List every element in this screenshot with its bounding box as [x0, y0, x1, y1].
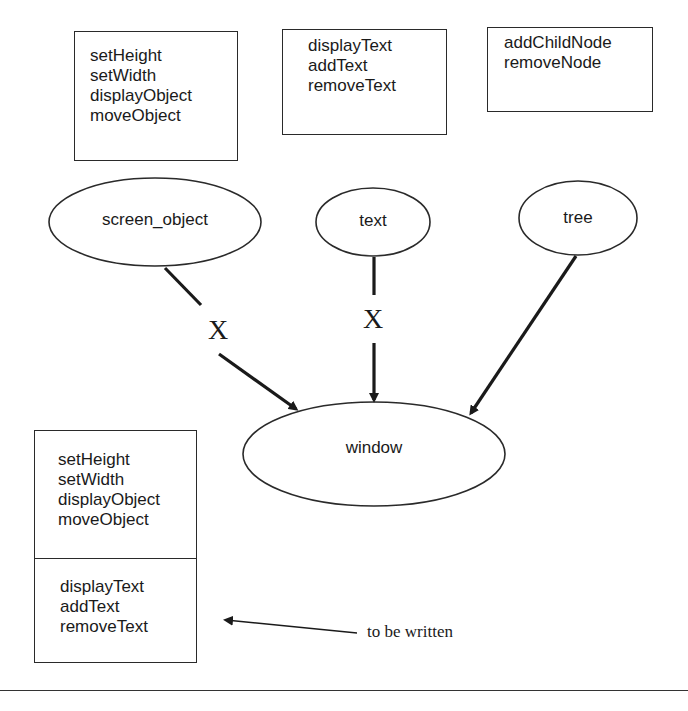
method-label: displayText	[60, 577, 148, 597]
annotation-arrow	[226, 620, 357, 633]
text-label: text	[333, 211, 413, 231]
edge-screen-object-upper	[165, 268, 201, 305]
box-divider	[35, 558, 196, 559]
bottom-rule	[0, 690, 688, 691]
tree-label: tree	[538, 208, 618, 228]
to-be-written-note: to be written	[367, 622, 453, 642]
method-label: moveObject	[58, 510, 160, 530]
method-label: removeText	[60, 617, 148, 637]
method-label: displayObject	[58, 490, 160, 510]
window-methods-box: setHeight setWidth displayObject moveObj…	[34, 430, 197, 663]
method-label: setWidth	[58, 470, 160, 490]
method-label: setHeight	[58, 450, 160, 470]
blocked-x-screen-object: X	[208, 314, 228, 346]
edge-tree	[471, 256, 576, 413]
method-label: addText	[60, 597, 148, 617]
edge-screen-object-lower	[219, 354, 296, 409]
window-label: window	[324, 438, 424, 458]
blocked-x-text: X	[363, 303, 383, 335]
screen-object-label: screen_object	[90, 210, 220, 230]
